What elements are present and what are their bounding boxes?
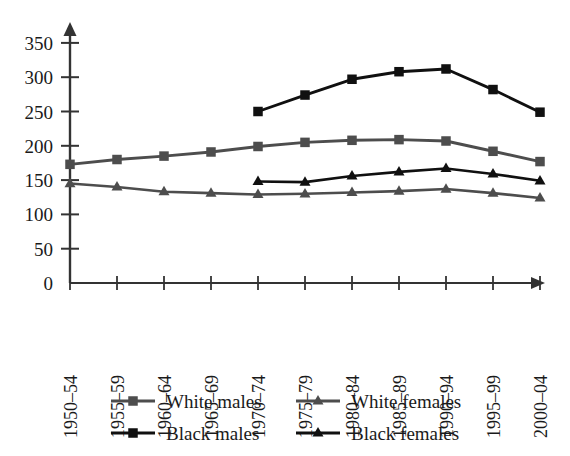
- data-point-8: [441, 183, 452, 193]
- data-point-6: [347, 136, 357, 146]
- data-point-3: [394, 67, 404, 77]
- legend-marker-square: [128, 428, 138, 438]
- data-point-4: [441, 64, 451, 74]
- y-tick-label-250: 250: [25, 102, 54, 123]
- data-point-0: [65, 160, 75, 170]
- data-point-1: [300, 90, 310, 100]
- data-point-10: [535, 157, 545, 167]
- series-black-females: [253, 163, 546, 186]
- data-point-6: [535, 107, 545, 117]
- legend-item-white-females[interactable]: White females: [296, 391, 461, 412]
- y-axis-arrowhead: [64, 22, 77, 36]
- y-tick-label-0: 0: [44, 273, 54, 294]
- data-point-0: [253, 107, 263, 117]
- y-tick-label-300: 300: [25, 67, 54, 88]
- data-point-0: [65, 178, 76, 188]
- y-tick-label-150: 150: [25, 170, 54, 191]
- data-point-4: [253, 142, 263, 152]
- legend-item-black-males[interactable]: Black males: [111, 423, 259, 444]
- legend-label: Black females: [351, 423, 459, 444]
- y-tick-label-100: 100: [25, 204, 54, 225]
- legend-label: White males: [166, 391, 262, 412]
- y-tick-label-50: 50: [34, 239, 53, 260]
- data-point-1: [112, 155, 122, 165]
- line-chart: 0501001502002503003501950–541955–591960–…: [0, 0, 570, 456]
- x-tick-label-0: 1950–54: [61, 375, 81, 438]
- data-point-5: [300, 138, 310, 148]
- x-tick-label-5: 1975–79: [296, 375, 316, 438]
- data-point-3: [206, 147, 216, 157]
- data-point-2: [159, 151, 169, 161]
- x-tick-label-1: 1955–59: [108, 375, 128, 438]
- data-point-7: [394, 135, 404, 145]
- legend-item-white-males[interactable]: White males: [111, 391, 262, 412]
- x-tick-label-9: 1995–99: [484, 375, 504, 438]
- x-axis-ticks: 1950–541955–591960–641965–691970–741975–…: [61, 276, 551, 438]
- data-point-5: [488, 85, 498, 95]
- y-tick-label-200: 200: [25, 136, 54, 157]
- series-black-males: [253, 64, 545, 117]
- series-white-males: [65, 135, 545, 169]
- legend-label: Black males: [166, 423, 259, 444]
- data-point-9: [488, 147, 498, 157]
- data-point-2: [347, 75, 357, 85]
- data-point-4: [441, 163, 452, 173]
- x-tick-label-10: 2000–04: [531, 375, 551, 438]
- y-tick-label-350: 350: [25, 33, 54, 54]
- data-point-8: [441, 136, 451, 146]
- legend-label: White females: [351, 391, 461, 412]
- x-axis-arrowhead: [531, 277, 545, 289]
- chart-canvas: 0501001502002503003501950–541955–591960–…: [0, 0, 570, 456]
- legend-marker-square: [128, 396, 138, 406]
- legend-item-black-females[interactable]: Black females: [296, 423, 459, 444]
